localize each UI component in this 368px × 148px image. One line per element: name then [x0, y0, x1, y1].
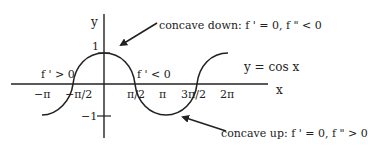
y-axis-label: y [91, 16, 98, 28]
concave-up-annotation: concave up: f ' = 0, f " > 0 [221, 128, 368, 139]
function-label: y = cos x [244, 61, 299, 73]
x-tick-label-two-pi: 2π [220, 89, 234, 100]
increasing-annotation: f ' > 0 [41, 69, 75, 80]
x-tick-label-neg-pi: −π [34, 89, 50, 100]
x-axis-label: x [276, 84, 283, 96]
concave-up-arrow [183, 117, 226, 131]
x-tick-label-pi: π [159, 89, 166, 100]
concave-down-arrow [121, 23, 157, 45]
x-tick-label-half-pi: π/2 [127, 89, 145, 100]
x-tick-label-three-half-pi: 3π/2 [181, 89, 206, 100]
y-tick-label-neg1: −1 [81, 111, 97, 122]
y-tick-label-1: 1 [92, 41, 99, 52]
decreasing-annotation: f ' < 0 [137, 69, 171, 80]
x-tick-label-neg-half-pi: −π/2 [65, 89, 92, 100]
concave-down-annotation: concave down: f ' = 0, f " < 0 [159, 20, 322, 31]
